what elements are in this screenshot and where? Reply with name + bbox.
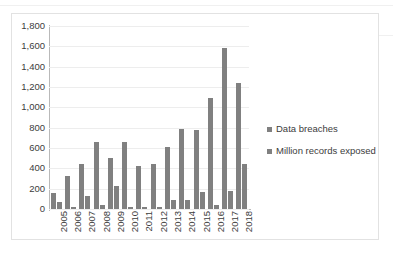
category-axis-tick-label: 2015 [202, 211, 212, 251]
bar [179, 129, 184, 209]
category-axis-tick-label: 2016 [216, 211, 226, 251]
chart-figure: 02004006008001,0001,2001,4001,6001,800 2… [11, 13, 379, 240]
legend-item-label: Million records exposed [276, 146, 376, 156]
bar-group [136, 26, 147, 209]
bar [71, 207, 76, 209]
bar-group [165, 26, 176, 209]
bar [142, 207, 147, 209]
value-axis-tick-label: 800 [13, 123, 45, 133]
bar-group [65, 26, 76, 209]
legend-item[interactable]: Million records exposed [267, 146, 377, 156]
bar [51, 193, 56, 209]
value-axis-tick-label: 0 [13, 204, 45, 214]
bar [157, 207, 162, 209]
value-axis-tick-label: 1,200 [13, 82, 45, 92]
bar [100, 205, 105, 209]
bar [128, 207, 133, 209]
value-axis-tick-label: 1,000 [13, 102, 45, 112]
bar [185, 200, 190, 209]
value-axis-tick-label: 400 [13, 163, 45, 173]
bar [151, 164, 156, 209]
bar [165, 147, 170, 209]
bar [85, 196, 90, 209]
chart-legend: Data breachesMillion records exposed [267, 124, 377, 168]
value-axis-tick-labels: 02004006008001,0001,2001,4001,6001,800 [12, 26, 45, 209]
gridline [49, 209, 249, 210]
bar-group [222, 26, 233, 209]
bar-group [94, 26, 105, 209]
value-axis-tick-label: 1,800 [13, 21, 45, 31]
bar [79, 164, 84, 209]
category-axis-tick-label: 2005 [59, 211, 69, 251]
bar [114, 186, 119, 209]
bar [194, 130, 199, 209]
bar-group [179, 26, 190, 209]
bar [242, 164, 247, 209]
bar-group [151, 26, 162, 209]
bar-group [108, 26, 119, 209]
bar-group [236, 26, 247, 209]
category-axis-tick-label: 2011 [144, 211, 154, 251]
bar [236, 83, 241, 209]
bar [222, 48, 227, 209]
legend-item[interactable]: Data breaches [267, 124, 377, 134]
category-axis-tick-label: 2014 [187, 211, 197, 251]
bar [108, 158, 113, 209]
bar [65, 176, 70, 209]
category-axis-tick-label: 2017 [230, 211, 240, 251]
legend-swatch-icon [267, 149, 272, 154]
bar-group [79, 26, 90, 209]
category-axis-tick-label: 2008 [102, 211, 112, 251]
bar-group [51, 26, 62, 209]
bar [200, 192, 205, 209]
category-axis-tick-labels: 2005200620072008200920102011201220132014… [49, 211, 251, 251]
legend-item-label: Data breaches [276, 124, 338, 134]
category-axis-tick-label: 2010 [130, 211, 140, 251]
decorative-rule-top [0, 5, 393, 6]
value-axis-tick-label: 1,400 [13, 62, 45, 72]
bar [171, 200, 176, 209]
value-axis-tick-label: 200 [13, 184, 45, 194]
bar [94, 142, 99, 209]
bar [122, 142, 127, 209]
category-axis-tick-label: 2007 [87, 211, 97, 251]
value-axis-tick-label: 1,600 [13, 41, 45, 51]
bar [228, 191, 233, 209]
category-axis-tick-label: 2013 [173, 211, 183, 251]
bar [57, 202, 62, 209]
category-axis-tick-label: 2009 [116, 211, 126, 251]
bar [208, 98, 213, 209]
category-axis-tick-label: 2006 [73, 211, 83, 251]
category-axis-tick-label: 2012 [159, 211, 169, 251]
bar-group [194, 26, 205, 209]
value-axis-tick-label: 600 [13, 143, 45, 153]
bar-group [122, 26, 133, 209]
plot-area [49, 26, 249, 209]
bar-group [208, 26, 219, 209]
legend-swatch-icon [267, 127, 272, 132]
bar [136, 166, 141, 209]
bar [214, 205, 219, 209]
category-axis-tick-label: 2018 [244, 211, 254, 251]
